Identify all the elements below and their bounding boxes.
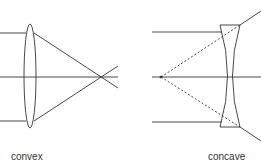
concave-lens-group bbox=[152, 11, 261, 141]
lens-diagram bbox=[0, 0, 261, 168]
convex-label: convex bbox=[11, 151, 43, 162]
concave-virtual-ray-top bbox=[161, 25, 240, 77]
convex-lens bbox=[24, 24, 36, 128]
convex-refracted-ray-top bbox=[34, 33, 118, 88]
concave-lens bbox=[220, 25, 240, 127]
convex-refracted-ray-bottom bbox=[34, 66, 118, 121]
convex-lens-group bbox=[0, 24, 118, 128]
concave-label: concave bbox=[208, 151, 245, 162]
virtual-focal-point bbox=[160, 76, 162, 78]
concave-virtual-ray-bottom bbox=[161, 77, 240, 127]
concave-diverging-ray-top bbox=[240, 11, 261, 25]
concave-diverging-ray-bottom bbox=[240, 127, 261, 141]
